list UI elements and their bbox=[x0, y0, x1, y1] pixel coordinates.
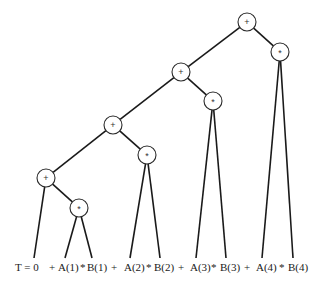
tree-edge bbox=[262, 61, 279, 258]
plus-node: + bbox=[37, 169, 55, 187]
expression-term: + bbox=[178, 261, 184, 273]
expression-term: B(4) bbox=[288, 261, 309, 274]
expression-term: B(3) bbox=[220, 261, 241, 274]
expression-tree-diagram: +*+*+*+* T = 0+A(1)*B(1)+A(2)*B(2)+A(3)*… bbox=[0, 0, 319, 282]
multiply-node: * bbox=[271, 43, 289, 61]
expression-term: B(2) bbox=[154, 261, 175, 274]
expression-term: T = 0 bbox=[15, 261, 39, 273]
tree-nodes: +*+*+*+* bbox=[37, 13, 289, 217]
plus-operator: + bbox=[178, 67, 183, 77]
expression-term: + bbox=[49, 261, 55, 273]
plus-node: + bbox=[238, 13, 256, 31]
multiply-node: * bbox=[204, 92, 222, 110]
tree-edge bbox=[120, 78, 174, 120]
plus-operator: + bbox=[43, 173, 48, 183]
expression-term: A(2) bbox=[124, 261, 145, 274]
tree-edge bbox=[214, 110, 226, 258]
plus-node: + bbox=[172, 63, 190, 81]
plus-operator: + bbox=[110, 120, 115, 130]
tree-svg: +*+*+*+* T = 0+A(1)*B(1)+A(2)*B(2)+A(3)*… bbox=[0, 0, 319, 282]
tree-edges bbox=[34, 27, 293, 258]
multiply-node: * bbox=[138, 146, 156, 164]
multiply-operator: * bbox=[77, 204, 81, 214]
tree-edge bbox=[53, 131, 106, 173]
tree-edge bbox=[188, 78, 207, 95]
expression-term: + bbox=[244, 261, 250, 273]
expression-term: * bbox=[146, 261, 152, 273]
tree-edge bbox=[53, 184, 73, 202]
tree-edge bbox=[65, 217, 77, 258]
expression-term: B(1) bbox=[87, 261, 108, 274]
tree-edge bbox=[188, 27, 240, 66]
expression-term: A(4) bbox=[256, 261, 277, 274]
expression-labels: T = 0+A(1)*B(1)+A(2)*B(2)+A(3)*B(3)+A(4)… bbox=[15, 261, 309, 274]
expression-term: * bbox=[80, 261, 86, 273]
tree-edge bbox=[281, 61, 293, 258]
expression-term: A(3) bbox=[190, 261, 211, 274]
tree-edge bbox=[254, 28, 274, 46]
tree-edge bbox=[81, 217, 92, 258]
expression-term: * bbox=[279, 261, 285, 273]
tree-edge bbox=[34, 187, 45, 258]
expression-term: * bbox=[211, 261, 217, 273]
plus-operator: + bbox=[244, 17, 249, 27]
multiply-operator: * bbox=[278, 48, 282, 58]
multiply-operator: * bbox=[211, 97, 215, 107]
tree-edge bbox=[120, 131, 141, 149]
expression-term: + bbox=[111, 261, 117, 273]
plus-node: + bbox=[104, 116, 122, 134]
multiply-node: * bbox=[70, 199, 88, 217]
tree-edge bbox=[130, 164, 146, 258]
multiply-operator: * bbox=[145, 151, 149, 161]
tree-edge bbox=[148, 164, 160, 258]
tree-edge bbox=[196, 110, 212, 258]
expression-term: A(1) bbox=[58, 261, 79, 274]
